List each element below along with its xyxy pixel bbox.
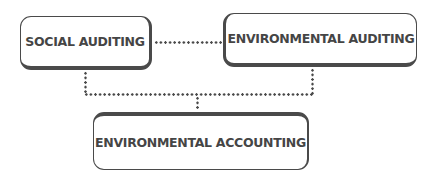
connector-to-env-accounting <box>196 96 199 110</box>
node-social-auditing: SOCIAL AUDITING <box>20 16 152 70</box>
node-environmental-auditing: ENVIRONMENTAL AUDITING <box>223 13 417 67</box>
node-environmental-accounting: ENVIRONMENTAL ACCOUNTING <box>93 112 309 170</box>
connector-env-auditing-down <box>311 68 314 95</box>
node-label: ENVIRONMENTAL ACCOUNTING <box>95 135 306 150</box>
connector-social-to-env-auditing <box>154 41 222 44</box>
node-label: SOCIAL AUDITING <box>25 34 144 49</box>
node-label: ENVIRONMENTAL AUDITING <box>228 31 415 46</box>
connector-social-down <box>84 71 87 95</box>
connector-bus <box>84 93 314 96</box>
